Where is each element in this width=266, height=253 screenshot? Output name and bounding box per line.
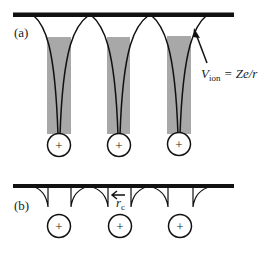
panel-b: (b) rc + + +: [13, 184, 234, 238]
diagram-canvas: (a) Vion = Ze/r + + + (b) rc + + +: [0, 0, 266, 253]
panel-a-label: (a): [14, 25, 28, 40]
panel-b-label: (b): [14, 198, 29, 213]
cutoff-radius-label: rc: [116, 195, 125, 212]
ion-2: +: [108, 134, 131, 157]
ion-b-3: +: [169, 215, 192, 238]
potential-formula: Vion = Ze/r: [201, 66, 258, 83]
svg-text:+: +: [176, 219, 183, 234]
core-region-3: [167, 36, 191, 134]
arrow-pointer: [196, 34, 207, 63]
panel-a: (a) Vion = Ze/r + + +: [13, 13, 258, 157]
surface-bar-a: [13, 13, 234, 18]
svg-text:+: +: [175, 137, 182, 152]
core-region-2: [107, 37, 130, 134]
ion-b-1: +: [48, 215, 71, 238]
svg-text:+: +: [116, 219, 123, 234]
pseudopotential-figure: (a) Vion = Ze/r + + + (b) rc + + +: [0, 0, 266, 253]
ion-b-2: +: [109, 215, 132, 238]
surface-bar-b: [13, 184, 234, 188]
svg-text:+: +: [55, 138, 62, 153]
svg-text:+: +: [55, 219, 62, 234]
ion-1: +: [48, 134, 71, 157]
svg-text:+: +: [115, 138, 122, 153]
ion-3: +: [168, 133, 191, 156]
